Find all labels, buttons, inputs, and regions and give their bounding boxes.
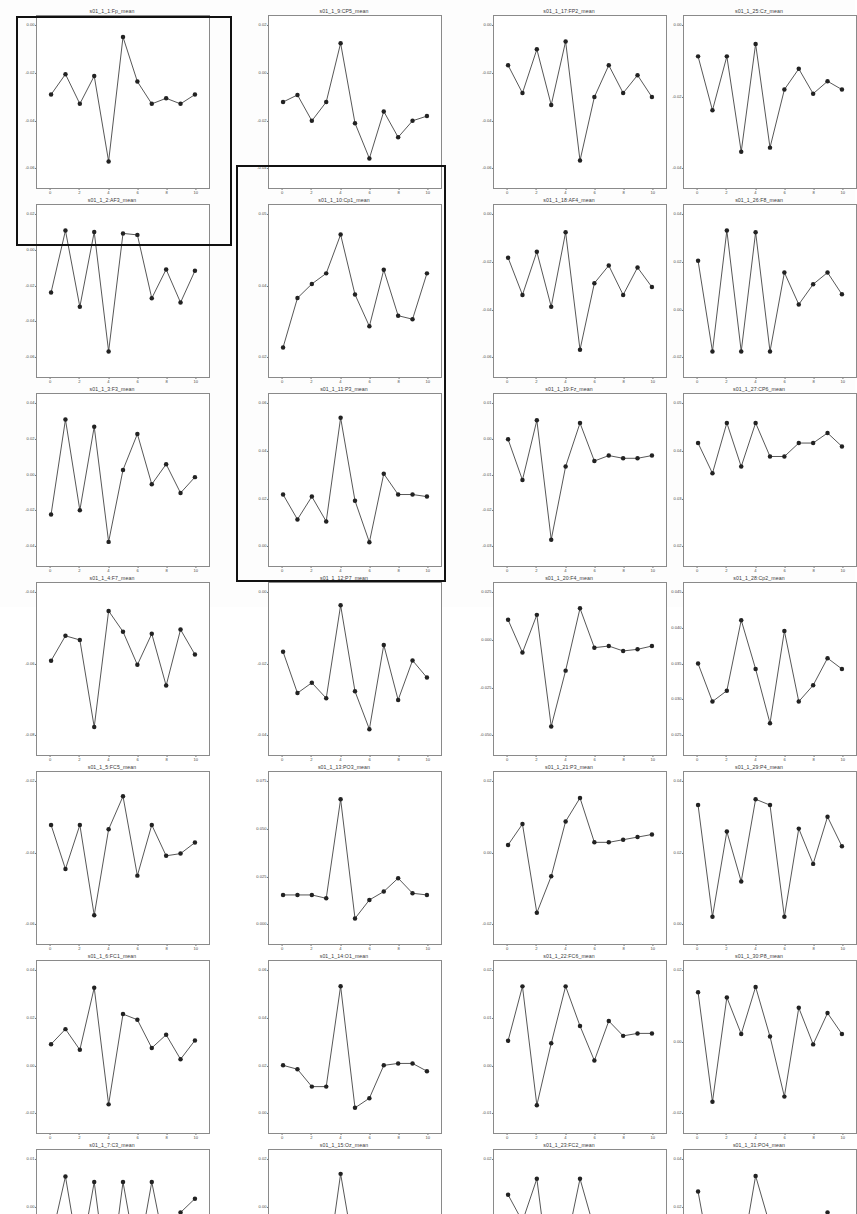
data-point-marker: [164, 96, 168, 100]
plot-area[interactable]: [493, 393, 667, 567]
plot-area[interactable]: [268, 15, 442, 189]
data-point-marker: [92, 1180, 96, 1184]
chart-panel[interactable]: s01_1_10:Cp1_mean0.050.040.020246810: [246, 197, 442, 385]
chart-panel[interactable]: s01_1_29:P4_mean0.040.020.000246810: [661, 764, 857, 952]
y-axis: 0.020.00-0.02-0.04: [246, 1149, 268, 1214]
plot-area[interactable]: [36, 15, 210, 189]
chart-panel[interactable]: s01_1_18:AF4_mean0.00-0.02-0.04-0.060246…: [471, 197, 667, 385]
plot-area[interactable]: [36, 393, 210, 567]
chart-panel[interactable]: s01_1_26:F8_mean0.040.020.00-0.020246810: [661, 197, 857, 385]
chart-panel[interactable]: s01_1_27:CP6_mean0.050.040.030.020246810: [661, 386, 857, 574]
plot-area[interactable]: [683, 393, 857, 567]
data-point-marker: [150, 296, 154, 300]
plot-row: 0.020.00-0.02-0.04-0.06: [14, 204, 210, 378]
data-point-marker: [768, 349, 772, 353]
x-tick-label: 0: [506, 947, 508, 951]
plot-row: -0.04-0.06-0.08: [14, 582, 210, 756]
plot-area[interactable]: [493, 582, 667, 756]
chart-panel[interactable]: s01_1_5:FC5_mean-0.02-0.04-0.060246810: [14, 764, 210, 952]
x-axis: 0246810: [268, 1134, 442, 1141]
y-tick-label: 0.04: [674, 779, 682, 783]
plot-area[interactable]: [268, 582, 442, 756]
y-tick-label: 0.045: [671, 590, 681, 594]
chart-panel[interactable]: s01_1_14:O1_mean0.060.040.020.000246810: [246, 953, 442, 1141]
chart-panel[interactable]: s01_1_12:P7_mean0.00-0.02-0.040246810: [246, 575, 442, 763]
plot-area[interactable]: [36, 960, 210, 1134]
y-tick-label: 0.01: [27, 1157, 35, 1161]
chart-panel[interactable]: s01_1_28:Cp2_mean0.0450.0400.0350.0300.0…: [661, 575, 857, 763]
chart-panel[interactable]: s01_1_1:Fp_mean0.00-0.02-0.04-0.06024681…: [14, 8, 210, 196]
y-tick-label: -0.04: [257, 166, 266, 170]
plot-row: 0.060.040.020.00: [246, 960, 442, 1134]
plot-area[interactable]: [683, 960, 857, 1134]
plot-area[interactable]: [36, 582, 210, 756]
plot-area[interactable]: [268, 204, 442, 378]
y-tick-label: 0.00: [674, 23, 682, 27]
y-tick-label: -0.02: [25, 1111, 34, 1115]
plot-area[interactable]: [683, 15, 857, 189]
chart-panel[interactable]: s01_1_4:F7_mean-0.04-0.06-0.080246810: [14, 575, 210, 763]
plot-area[interactable]: [268, 771, 442, 945]
x-tick-label: 2: [535, 569, 537, 573]
x-tick-label: 0: [696, 1136, 698, 1140]
chart-panel[interactable]: s01_1_30:P8_mean0.020.00-0.020246810: [661, 953, 857, 1141]
x-tick-label: 4: [339, 1136, 341, 1140]
chart-panel[interactable]: s01_1_2:AF3_mean0.020.00-0.02-0.04-0.060…: [14, 197, 210, 385]
data-point-marker: [563, 668, 567, 672]
x-tick-label: 8: [398, 380, 400, 384]
plot-area[interactable]: [683, 771, 857, 945]
plot-area[interactable]: [36, 1149, 210, 1214]
plot-area[interactable]: [493, 204, 667, 378]
data-point-marker: [696, 54, 700, 58]
y-tick-label: -0.04: [672, 166, 681, 170]
chart-panel[interactable]: s01_1_22:FC6_mean0.020.010.00-0.01024681…: [471, 953, 667, 1141]
x-tick-label: 0: [281, 569, 283, 573]
plot-area[interactable]: [683, 204, 857, 378]
chart-panel[interactable]: s01_1_13:PO3_mean0.0750.0500.0250.000024…: [246, 764, 442, 952]
plot-area[interactable]: [268, 393, 442, 567]
x-tick-label: 10: [650, 1136, 655, 1140]
x-tick-label: 8: [623, 758, 625, 762]
plot-area[interactable]: [493, 1149, 667, 1214]
chart-panel[interactable]: s01_1_19:Fz_mean0.010.00-0.01-0.02-0.030…: [471, 386, 667, 574]
data-point-marker: [739, 464, 743, 468]
x-tick-label: 8: [166, 191, 168, 195]
plot-area[interactable]: [683, 582, 857, 756]
plot-area[interactable]: [493, 771, 667, 945]
plot-area[interactable]: [268, 960, 442, 1134]
chart-panel[interactable]: s01_1_11:P3_mean0.060.040.020.000246810: [246, 386, 442, 574]
chart-panel[interactable]: s01_1_25:Cz_mean0.00-0.02-0.040246810: [661, 8, 857, 196]
x-tick-label: 8: [813, 758, 815, 762]
chart-panel[interactable]: s01_1_15:Oz_mean0.020.00-0.02-0.04024681…: [246, 1142, 442, 1214]
data-point-marker: [338, 41, 342, 45]
chart-panel[interactable]: s01_1_7:C3_mean0.010.00-0.01-0.020246810: [14, 1142, 210, 1214]
chart-panel[interactable]: s01_1_9:CP5_mean0.020.00-0.02-0.04024681…: [246, 8, 442, 196]
plot-area[interactable]: [36, 204, 210, 378]
data-point-marker: [121, 231, 125, 235]
chart-panel[interactable]: s01_1_21:P3_mean0.020.00-0.020246810: [471, 764, 667, 952]
data-point-marker: [150, 102, 154, 106]
data-point-marker: [825, 815, 829, 819]
data-point-marker: [797, 302, 801, 306]
plot-area[interactable]: [683, 1149, 857, 1214]
series-plot: [269, 1150, 441, 1214]
chart-panel[interactable]: s01_1_3:F3_mean0.040.020.00-0.02-0.04024…: [14, 386, 210, 574]
plot-area[interactable]: [36, 771, 210, 945]
y-tick-label: 0.040: [671, 626, 681, 630]
chart-panel[interactable]: s01_1_31:PO4_mean0.040.020.00-0.02024681…: [661, 1142, 857, 1214]
plot-area[interactable]: [268, 1149, 442, 1214]
chart-panel[interactable]: s01_1_23:FC2_mean0.020.00-0.020246810: [471, 1142, 667, 1214]
plot-area[interactable]: [493, 15, 667, 189]
chart-panel[interactable]: s01_1_6:FC1_mean0.040.020.00-0.020246810: [14, 953, 210, 1141]
data-point-marker: [92, 74, 96, 78]
chart-title: s01_1_11:P3_mean: [246, 386, 442, 393]
series-line: [51, 988, 195, 1105]
chart-panel[interactable]: s01_1_20:F4_mean0.0250.000-0.025-0.05002…: [471, 575, 667, 763]
data-point-marker: [753, 667, 757, 671]
x-axis: 0246810: [36, 189, 210, 196]
y-axis: 0.0750.0500.0250.000: [246, 771, 268, 945]
plot-area[interactable]: [493, 960, 667, 1134]
x-axis: 0246810: [493, 945, 667, 952]
data-point-marker: [310, 282, 314, 286]
chart-panel[interactable]: s01_1_17:FP2_mean0.00-0.02-0.04-0.060246…: [471, 8, 667, 196]
